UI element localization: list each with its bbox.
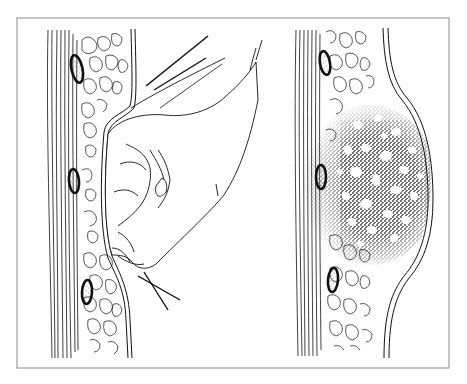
vessel-left-middle [68,169,80,194]
vessel-right-middle [316,165,326,189]
vessel-right-bottom [327,268,339,293]
vessel-left-top [69,54,86,84]
illustration-canvas [0,0,467,384]
left-panel-impact [47,29,262,358]
fist [105,40,262,268]
muscle-fibers-left [47,30,78,358]
wrist-line [131,58,225,108]
illustration-svg [0,0,467,384]
blood-vessels-left [68,54,93,304]
vessel-left-bottom [81,280,92,304]
right-panel-bruise [295,28,440,358]
